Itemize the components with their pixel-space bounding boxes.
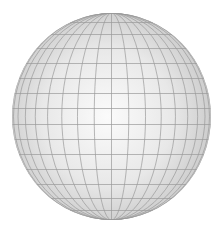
globe-stage: [0, 0, 219, 233]
wireframe-globe: [0, 0, 219, 233]
